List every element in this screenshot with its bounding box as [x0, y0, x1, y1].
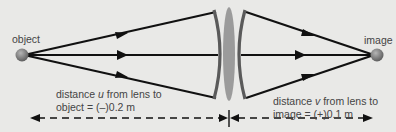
object-point	[16, 49, 29, 62]
distance-u-line1: distance u from lens to	[56, 88, 162, 101]
convex-lens	[223, 7, 235, 101]
distance-u-prefix: distance	[56, 88, 98, 100]
image-point	[371, 49, 384, 62]
distance-v-value: image = (+)0.1 m	[273, 108, 378, 121]
lens-diagram: object image distance u from lens to obj…	[0, 0, 396, 132]
distance-u-value: object = (–)0.2 m	[56, 101, 162, 114]
object-label: object	[12, 33, 40, 46]
distance-v-line1: distance v from lens to	[273, 95, 378, 108]
image-side-rays	[241, 12, 374, 98]
distance-v-suffix: from lens to	[320, 95, 378, 107]
lens-system	[214, 7, 245, 101]
distance-u-caption: distance u from lens to object = (–)0.2 …	[56, 88, 162, 114]
image-label: image	[364, 34, 393, 47]
distance-u-suffix: from lens to	[104, 88, 162, 100]
distance-v-prefix: distance	[273, 95, 315, 107]
distance-v-caption: distance v from lens to image = (+)0.1 m	[273, 95, 378, 121]
distance-u-arrow	[30, 114, 228, 122]
